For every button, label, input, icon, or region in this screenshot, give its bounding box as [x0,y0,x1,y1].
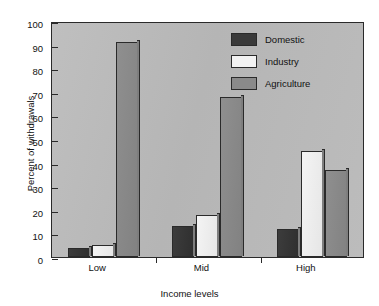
x-axis-tick [156,257,157,263]
legend-swatch-icon-domestic [231,33,257,46]
x-axis-tick [261,257,262,263]
legend-label-industry: Industry [265,56,299,67]
y-axis-tick-label: 70 [32,89,43,100]
y-axis-tick-label: 30 [32,184,43,195]
y-axis-tick-label: 20 [32,207,43,218]
bar-group [52,23,156,257]
x-axis-category-label: High [296,262,316,273]
bar-slot [92,245,116,257]
y-axis-tick-label: 60 [32,113,43,124]
bar-agriculture-mid [220,97,242,257]
bar-slot [196,215,220,257]
bar-domestic-low [68,248,90,257]
bar-domestic-mid [172,226,194,257]
y-axis-tick-label: 40 [32,160,43,171]
legend-label-agriculture: Agriculture [265,78,310,89]
y-axis-tick-label: 0 [38,255,43,266]
bar-slot [68,248,92,257]
legend-swatch-icon-agriculture [231,77,257,90]
legend-label-domestic: Domestic [265,34,305,45]
bar-industry-high [301,151,323,257]
bar-slot [301,151,325,257]
bar-industry-mid [196,215,218,257]
y-axis-tick: 0 [52,259,58,260]
y-axis-tick-label: 10 [32,231,43,242]
legend-item-agriculture: Agriculture [231,77,310,90]
legend-swatch-icon-industry [231,55,257,68]
bar-industry-low [92,245,114,257]
x-axis-category-label: Low [88,262,105,273]
chart-legend: Domestic Industry Agriculture [231,33,310,90]
legend-item-industry: Industry [231,55,310,68]
plot-area: 0102030405060708090100 [51,22,364,258]
y-axis-tick-label: 100 [27,19,43,30]
bar-slot [116,42,140,257]
bar-domestic-high [277,229,299,257]
y-axis-tick-label: 80 [32,66,43,77]
y-axis-tick-label: 50 [32,137,43,148]
bar-slot [220,97,244,257]
bar-slot [325,170,349,257]
bar-agriculture-low [116,42,138,257]
bar-slot [277,229,301,257]
legend-item-domestic: Domestic [231,33,310,46]
x-axis-title: Income levels [0,288,379,299]
bar-agriculture-high [325,170,347,257]
bar-chart: Percent of withdrawals 01020304050607080… [0,0,379,306]
x-axis-category-label: Mid [194,262,209,273]
bar-slot [172,226,196,257]
y-axis-tick-label: 90 [32,42,43,53]
